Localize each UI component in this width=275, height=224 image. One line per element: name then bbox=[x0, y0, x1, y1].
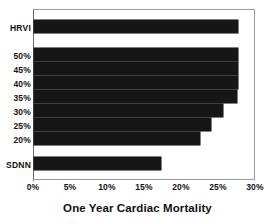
bar-row bbox=[34, 20, 238, 33]
bar-row bbox=[34, 132, 200, 145]
category-label-30: 30% bbox=[0, 107, 31, 117]
xtick-10: 10% bbox=[98, 182, 116, 192]
xtick-20: 20% bbox=[172, 182, 190, 192]
tick-mark-0 bbox=[33, 179, 34, 182]
x-axis-title: One Year Cardiac Mortality bbox=[0, 202, 275, 214]
category-axis: HRVI 50% 45% 40% 35% 30% 25% 20% SDNN bbox=[0, 10, 31, 179]
bar-45 bbox=[34, 62, 238, 75]
bar-30 bbox=[34, 104, 223, 117]
bar-25 bbox=[34, 118, 211, 131]
category-label-hrvi: HRVI bbox=[0, 23, 31, 33]
category-label-35: 35% bbox=[0, 93, 31, 103]
bar-row bbox=[34, 76, 238, 89]
bar-row bbox=[34, 104, 223, 117]
bar-hrvi bbox=[34, 20, 238, 33]
bar-row bbox=[34, 90, 237, 103]
bar-50 bbox=[34, 48, 238, 61]
bar-row bbox=[34, 48, 238, 61]
category-label-40: 40% bbox=[0, 79, 31, 89]
xtick-25: 25% bbox=[209, 182, 227, 192]
xtick-0: 0% bbox=[27, 182, 40, 192]
bar-row bbox=[34, 157, 161, 170]
category-label-25: 25% bbox=[0, 121, 31, 131]
bar-40 bbox=[34, 76, 238, 89]
bar-chart: HRVI 50% 45% 40% 35% 30% 25% 20% SDNN 0%… bbox=[0, 0, 275, 224]
category-label-50: 50% bbox=[0, 51, 31, 61]
xtick-30: 30% bbox=[246, 182, 264, 192]
category-label-45: 45% bbox=[0, 65, 31, 75]
value-axis: 0% 5% 10% 15% 20% 25% 30% bbox=[33, 182, 255, 196]
bar-20 bbox=[34, 132, 200, 145]
bars-container bbox=[34, 10, 255, 179]
bar-35 bbox=[34, 90, 237, 103]
xtick-15: 15% bbox=[135, 182, 153, 192]
category-label-20: 20% bbox=[0, 135, 31, 145]
category-label-sdnn: SDNN bbox=[0, 160, 31, 170]
bar-sdnn bbox=[34, 157, 161, 170]
bar-row bbox=[34, 118, 211, 131]
xtick-5: 5% bbox=[64, 182, 77, 192]
bar-row bbox=[34, 62, 238, 75]
